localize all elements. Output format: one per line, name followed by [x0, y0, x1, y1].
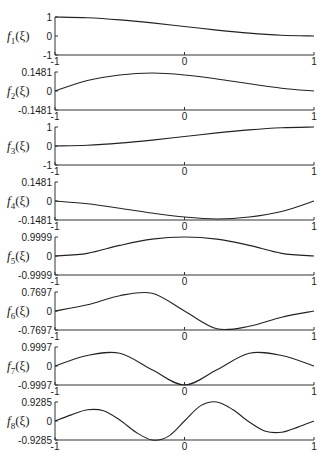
y-tick-label: 1	[46, 122, 52, 133]
panel-f2: 0.14810-0.1481-101f2(ξ)	[7, 67, 317, 123]
x-tick-label: -1	[51, 111, 60, 122]
x-tick-label: -1	[51, 56, 60, 67]
x-tick-label: 0	[182, 276, 188, 287]
x-tick-label: 0	[182, 111, 188, 122]
y-tick-label: 0	[46, 86, 52, 97]
y-axis-label: f4(ξ)	[7, 193, 30, 211]
y-tick-label: -0.7697	[18, 325, 52, 336]
y-tick-label: 0	[46, 251, 52, 262]
curve-line	[55, 292, 314, 329]
curve-line	[55, 201, 314, 219]
y-tick-label: 0.1481	[21, 177, 52, 188]
panel-f8: 0.92850-0.9285-101f8(ξ)	[7, 397, 317, 453]
x-tick-label: 1	[311, 221, 317, 232]
axes-frame	[55, 237, 314, 275]
curve-line	[55, 17, 314, 36]
x-tick-label: -1	[51, 166, 60, 177]
x-tick-label: -1	[51, 276, 60, 287]
y-tick-label: 0.7697	[21, 287, 52, 298]
panel-f3: 10-1-101f3(ξ)	[7, 122, 317, 178]
y-axis-label: f1(ξ)	[7, 28, 30, 46]
x-tick-label: 0	[182, 386, 188, 397]
y-tick-label: 0.9999	[21, 232, 52, 243]
y-tick-label: 0	[46, 196, 52, 207]
y-axis-label: f6(ξ)	[7, 303, 30, 321]
x-tick-label: 1	[311, 166, 317, 177]
curve-line	[55, 127, 314, 146]
y-axis-label: f7(ξ)	[7, 358, 30, 376]
y-tick-label: 0	[46, 306, 52, 317]
curve-line	[55, 73, 314, 91]
x-tick-label: 1	[311, 331, 317, 342]
panel-f6: 0.76970-0.7697-101f6(ξ)	[7, 287, 317, 343]
panel-f1: 10-1-101f1(ξ)	[7, 12, 317, 68]
x-tick-label: 0	[182, 166, 188, 177]
x-tick-label: 0	[182, 221, 188, 232]
basis-functions-figure: 10-1-101f1(ξ)0.14810-0.1481-101f2(ξ)10-1…	[0, 0, 334, 461]
axes-frame	[55, 17, 314, 55]
y-tick-label: 0.9997	[21, 342, 52, 353]
y-axis-label: f8(ξ)	[7, 413, 30, 431]
y-axis-label: f2(ξ)	[7, 83, 30, 101]
y-tick-label: -0.1481	[18, 105, 52, 116]
y-tick-label: -0.1481	[18, 215, 52, 226]
x-tick-label: -1	[51, 221, 60, 232]
y-tick-label: -0.9997	[18, 380, 52, 391]
curve-line	[55, 352, 314, 385]
x-tick-label: -1	[51, 441, 60, 452]
y-tick-label: 0	[46, 31, 52, 42]
y-tick-label: 0.9285	[21, 397, 52, 408]
x-tick-label: -1	[51, 331, 60, 342]
y-tick-label: -0.9285	[18, 435, 52, 446]
y-tick-label: 0	[46, 361, 52, 372]
x-tick-label: -1	[51, 386, 60, 397]
y-tick-label: 0	[46, 416, 52, 427]
axes-frame	[55, 182, 314, 220]
x-tick-label: 1	[311, 276, 317, 287]
x-tick-label: 0	[182, 441, 188, 452]
x-tick-label: 1	[311, 56, 317, 67]
axes-frame	[55, 127, 314, 165]
x-tick-label: 1	[311, 111, 317, 122]
y-tick-label: -0.9999	[18, 270, 52, 281]
y-tick-label: 0.1481	[21, 67, 52, 78]
axes-frame	[55, 72, 314, 110]
x-tick-label: 1	[311, 441, 317, 452]
x-tick-label: 0	[182, 331, 188, 342]
curve-line	[55, 237, 314, 256]
y-tick-label: 0	[46, 141, 52, 152]
y-axis-label: f3(ξ)	[7, 138, 30, 156]
axes-frame	[55, 347, 314, 385]
panel-f7: 0.99970-0.9997-101f7(ξ)	[7, 342, 317, 398]
x-tick-label: 1	[311, 386, 317, 397]
panel-f4: 0.14810-0.1481-101f4(ξ)	[7, 177, 317, 233]
x-tick-label: 0	[182, 56, 188, 67]
curve-line	[55, 402, 314, 440]
panel-f5: 0.99990-0.9999-101f5(ξ)	[7, 232, 317, 288]
y-axis-label: f5(ξ)	[7, 248, 30, 266]
y-tick-label: 1	[46, 12, 52, 23]
